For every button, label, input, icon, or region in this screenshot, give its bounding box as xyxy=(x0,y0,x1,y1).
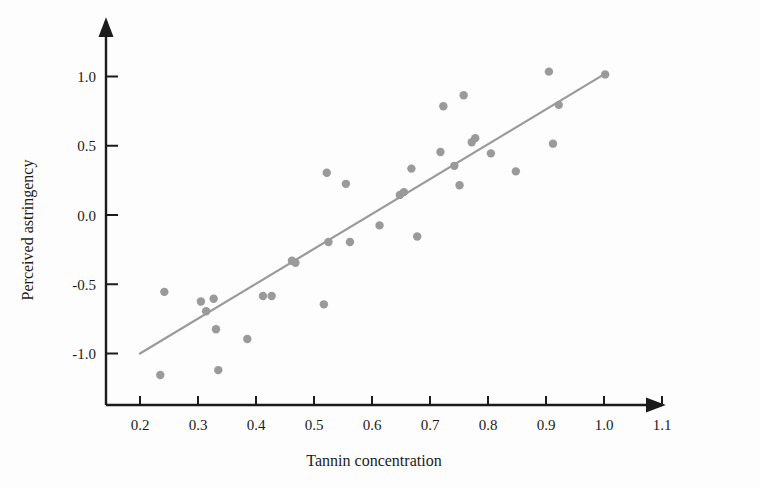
data-point xyxy=(439,102,447,110)
y-tick-label: -1.0 xyxy=(72,346,96,362)
x-tick-label: 1.1 xyxy=(653,417,672,433)
data-point xyxy=(324,238,332,246)
chart-canvas: 0.20.30.40.50.60.70.80.91.01.1 -1.0-0.50… xyxy=(0,0,760,488)
x-tick-label: 0.7 xyxy=(421,417,440,433)
x-tick-label: 0.3 xyxy=(189,417,208,433)
data-point xyxy=(459,91,467,99)
data-point xyxy=(209,295,217,303)
data-point xyxy=(413,232,421,240)
x-tick-label: 0.2 xyxy=(131,417,150,433)
data-point xyxy=(346,238,354,246)
x-tick-label: 1.0 xyxy=(595,417,614,433)
data-point xyxy=(555,101,563,109)
x-tick-label: 0.8 xyxy=(479,417,498,433)
data-point xyxy=(160,288,168,296)
data-point xyxy=(436,148,444,156)
y-axis-title: Perceived astringency xyxy=(19,160,37,301)
x-tick-label: 0.4 xyxy=(247,417,266,433)
x-axis-ticks: 0.20.30.40.50.60.70.80.91.01.1 xyxy=(131,396,672,433)
scatter-chart-figure: 0.20.30.40.50.60.70.80.91.01.1 -1.0-0.50… xyxy=(0,0,760,488)
x-tick-label: 0.6 xyxy=(363,417,382,433)
x-tick-label: 0.9 xyxy=(537,417,556,433)
data-point xyxy=(487,149,495,157)
y-tick-label: 0.5 xyxy=(77,138,96,154)
data-point xyxy=(545,67,553,75)
x-axis-title: Tannin concentration xyxy=(306,452,441,469)
data-point xyxy=(212,325,220,333)
data-point xyxy=(471,134,479,142)
data-point xyxy=(407,164,415,172)
y-tick-label: 0.0 xyxy=(77,208,96,224)
data-point xyxy=(400,188,408,196)
y-axis-ticks: -1.0-0.50.00.51.0 xyxy=(72,69,118,362)
y-tick-label: -0.5 xyxy=(72,277,96,293)
data-point xyxy=(259,292,267,300)
data-point xyxy=(323,169,331,177)
data-point xyxy=(291,259,299,267)
data-point xyxy=(455,181,463,189)
data-point xyxy=(320,300,328,308)
data-point xyxy=(214,366,222,374)
data-point xyxy=(601,70,609,78)
axes-group xyxy=(106,35,648,405)
y-tick-label: 1.0 xyxy=(77,69,96,85)
data-point xyxy=(267,292,275,300)
data-point xyxy=(342,180,350,188)
data-point xyxy=(243,335,251,343)
data-point xyxy=(202,307,210,315)
x-tick-label: 0.5 xyxy=(305,417,324,433)
data-point xyxy=(375,221,383,229)
data-point xyxy=(156,371,164,379)
data-point xyxy=(549,139,557,147)
data-point xyxy=(512,167,520,175)
data-points-group xyxy=(156,67,609,379)
data-point xyxy=(197,297,205,305)
data-point xyxy=(450,162,458,170)
